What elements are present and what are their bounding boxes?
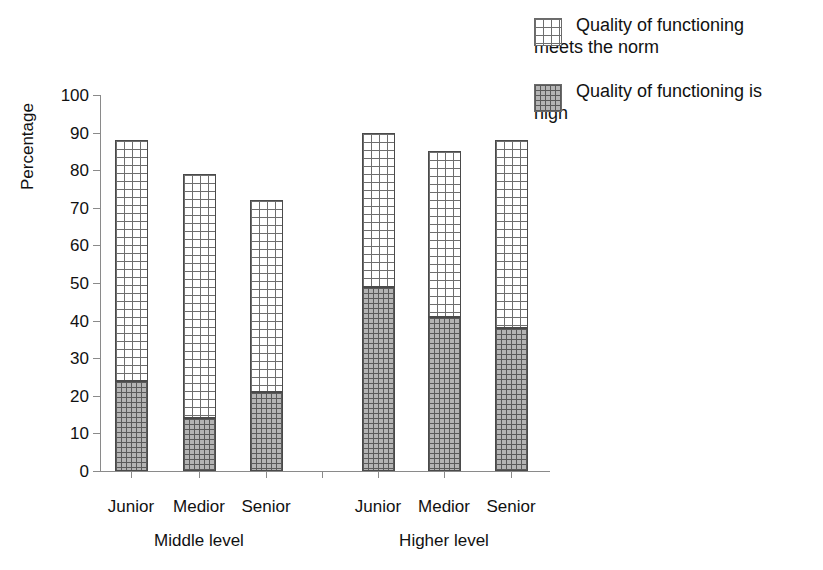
y-axis-tick-label: 40 (70, 312, 89, 329)
bar-segment-high (495, 328, 528, 471)
legend-item-label: Quality of functioning is high (534, 81, 762, 123)
stacked-bar-chart: Percentage 0102030405060708090100 Junior… (0, 0, 823, 570)
x-axis-group-separator-tick (322, 471, 323, 478)
bar (495, 95, 528, 471)
y-axis-tick-mark (93, 133, 100, 134)
bar-segment-high (183, 418, 216, 471)
bar-segment-high (428, 317, 461, 471)
chart-legend: Quality of functioning meets the norm Qu… (534, 14, 823, 146)
y-axis-tick-mark (93, 471, 100, 472)
bar-segment-norm (183, 174, 216, 418)
y-axis-tick-label: 20 (70, 387, 89, 404)
x-axis-category-label: Senior (221, 497, 311, 517)
y-axis-title: Percentage (18, 103, 38, 190)
bar-segment-high (115, 381, 148, 471)
x-axis-tick-mark (199, 471, 200, 478)
y-axis-tick-mark (93, 396, 100, 397)
y-axis-tick-label: 30 (70, 350, 89, 367)
x-axis-category-label: Senior (466, 497, 556, 517)
y-axis-tick-mark (93, 95, 100, 96)
y-axis-tick-mark (93, 321, 100, 322)
y-axis-tick-label: 0 (80, 463, 89, 480)
y-axis-tick-label: 60 (70, 237, 89, 254)
bar (428, 95, 461, 471)
y-axis-tick-label: 50 (70, 275, 89, 292)
bar-segment-norm (250, 200, 283, 392)
x-axis-group-label: Higher level (354, 531, 534, 551)
y-axis-tick-mark (93, 208, 100, 209)
y-axis-tick-mark (93, 433, 100, 434)
legend-item-label: Quality of functioning meets the norm (534, 15, 744, 57)
dark-grid-swatch-icon (534, 84, 562, 112)
x-axis-tick-mark (378, 471, 379, 478)
y-axis-tick-mark (93, 358, 100, 359)
plot-area: 0102030405060708090100 (100, 95, 540, 471)
bar-segment-norm (428, 151, 461, 316)
x-axis-group-label: Middle level (109, 531, 289, 551)
x-axis-tick-mark (131, 471, 132, 478)
light-grid-swatch-icon (534, 18, 562, 46)
bar-segment-high (362, 287, 395, 471)
y-axis-tick-label: 70 (70, 199, 89, 216)
bar (250, 95, 283, 471)
x-axis-tick-mark (444, 471, 445, 478)
bar (183, 95, 216, 471)
y-axis-tick-label: 10 (70, 425, 89, 442)
y-axis-tick-label: 80 (70, 162, 89, 179)
bar-segment-norm (115, 140, 148, 381)
bar-segment-norm (362, 133, 395, 287)
legend-item: Quality of functioning is high (534, 80, 823, 124)
x-axis-tick-mark (511, 471, 512, 478)
y-axis-tick-label: 100 (61, 87, 89, 104)
y-axis-tick-mark (93, 283, 100, 284)
bar-segment-high (250, 392, 283, 471)
y-axis-tick-label: 90 (70, 124, 89, 141)
x-axis-tick-mark (266, 471, 267, 478)
x-axis-line (100, 471, 550, 472)
bar (362, 95, 395, 471)
bar-segment-norm (495, 140, 528, 328)
bar (115, 95, 148, 471)
legend-item: Quality of functioning meets the norm (534, 14, 823, 58)
y-axis-tick-mark (93, 245, 100, 246)
y-axis-tick-mark (93, 170, 100, 171)
